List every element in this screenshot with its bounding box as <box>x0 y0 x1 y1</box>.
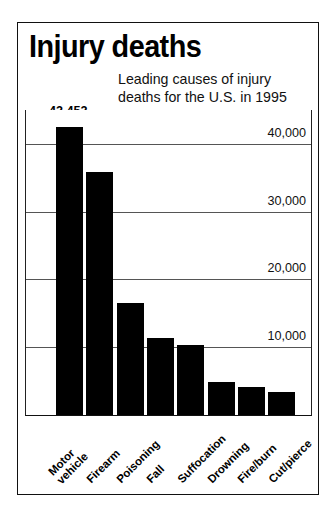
x-tick-label-motor-vehicle: Motorvehicle <box>46 442 90 486</box>
subtitle-line-2: deaths for the U.S. in 1995 <box>118 88 318 106</box>
chart-figure: Injury deaths Leading causes of injury d… <box>0 0 336 515</box>
bar-poisoning <box>117 303 144 415</box>
y-tick-label: 40,000 <box>240 126 306 140</box>
y-tick-label: 10,000 <box>240 329 306 343</box>
chart-subtitle: Leading causes of injury deaths for the … <box>118 70 318 106</box>
bar-firearm <box>86 172 113 415</box>
x-tick-label-line: Firearm <box>85 448 123 486</box>
bar-suffocation <box>177 345 204 415</box>
x-tick-label-firearm: Firearm <box>85 448 123 486</box>
x-tick-label-line: Fall <box>145 464 167 486</box>
subtitle-line-1: Leading causes of injury <box>118 70 318 88</box>
y-tick-label: 20,000 <box>240 261 306 275</box>
bar-drowning <box>208 382 235 415</box>
x-axis-category-labels: MotorvehicleFirearmPoisoningFallSuffocat… <box>25 416 312 494</box>
bar-fall <box>147 338 174 415</box>
bar-fire-burn <box>238 387 265 415</box>
y-tick-label: 30,000 <box>240 194 306 208</box>
bar-motor-vehicle <box>56 127 83 415</box>
page-title: Injury deaths <box>29 30 201 63</box>
x-tick-label-fall: Fall <box>145 464 167 486</box>
bar-cut-pierce <box>268 392 295 415</box>
